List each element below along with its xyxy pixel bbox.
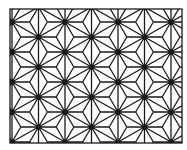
- star-center-dot: [36, 35, 40, 39]
- star-center-dot: [63, 80, 67, 84]
- star-center-dot: [142, 95, 146, 99]
- star-center-dot: [116, 20, 120, 24]
- star-center-dot: [116, 50, 120, 54]
- star-center-dot: [169, 110, 173, 114]
- star-center-dot: [36, 95, 40, 99]
- star-center-dot: [116, 80, 120, 84]
- star-center-dot: [63, 110, 67, 114]
- star-center-dot: [169, 80, 173, 84]
- star-center-dot: [89, 125, 93, 129]
- star-center-dot: [142, 35, 146, 39]
- asanoha-pattern: [0, 0, 187, 150]
- star-center-dot: [89, 65, 93, 69]
- star-center-dot: [36, 65, 40, 69]
- star-center-dot: [169, 50, 173, 54]
- pattern-lines: [0, 0, 187, 150]
- star-center-dot: [116, 110, 120, 114]
- star-center-dot: [63, 50, 67, 54]
- star-center-dot: [89, 95, 93, 99]
- star-center-dot: [89, 35, 93, 39]
- star-center-dot: [142, 65, 146, 69]
- star-center-dot: [63, 20, 67, 24]
- star-center-dot: [142, 125, 146, 129]
- star-center-dot: [169, 20, 173, 24]
- star-center-dot: [36, 125, 40, 129]
